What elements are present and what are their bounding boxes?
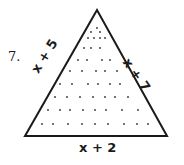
dot	[147, 123, 149, 125]
dot	[81, 70, 83, 72]
dot	[59, 109, 61, 111]
dot	[90, 31, 92, 33]
dot	[92, 96, 94, 98]
dot	[107, 123, 109, 125]
dot	[77, 59, 79, 61]
dot	[66, 96, 68, 98]
dot	[127, 96, 129, 98]
dot	[99, 47, 101, 49]
dot	[87, 83, 89, 85]
dot	[67, 123, 69, 125]
dot	[69, 70, 71, 72]
dot	[95, 70, 97, 72]
dot	[104, 70, 106, 72]
problem-number: 7.	[8, 49, 20, 64]
dot	[94, 123, 96, 125]
dot	[83, 47, 85, 49]
dot	[52, 123, 54, 125]
dot	[81, 123, 83, 125]
dot	[119, 83, 121, 85]
dot	[136, 123, 138, 125]
triangle-outline	[25, 10, 167, 136]
dot	[71, 83, 73, 85]
dot	[79, 96, 81, 98]
dot	[86, 59, 88, 61]
dot	[116, 70, 118, 72]
dot	[87, 37, 89, 39]
dot	[109, 83, 111, 85]
base-label: x + 2	[79, 140, 116, 155]
dot	[96, 27, 98, 29]
dot	[90, 47, 92, 49]
dot	[101, 59, 103, 61]
dot	[121, 109, 123, 111]
dot	[97, 83, 99, 85]
dot	[109, 59, 111, 61]
dot	[47, 109, 49, 111]
dot	[114, 96, 116, 98]
dot	[104, 96, 106, 98]
dot	[94, 109, 96, 111]
dot	[137, 109, 139, 111]
dot	[59, 83, 61, 85]
dot	[93, 37, 95, 39]
dot	[104, 37, 106, 39]
dot	[99, 37, 101, 39]
dot	[54, 96, 56, 98]
dot	[99, 31, 101, 33]
dot	[105, 109, 107, 111]
dot	[41, 123, 43, 125]
dot	[82, 109, 84, 111]
dot	[123, 123, 125, 125]
dot	[69, 109, 71, 111]
